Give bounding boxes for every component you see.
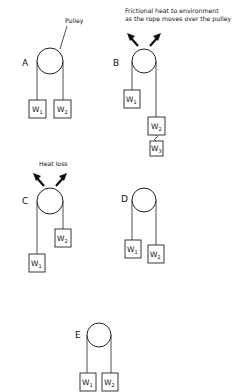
panel-d: D W1 W2 (121, 188, 164, 263)
panel-b: B Frictional heat to environment as the … (113, 7, 231, 156)
heat-arrow-right-icon (150, 33, 161, 46)
panel-e: E W1 W2 (75, 323, 118, 391)
panel-label-c: C (22, 196, 28, 206)
pulley-wheel (87, 323, 111, 347)
weight-w1: W1 (125, 240, 141, 258)
panel-c: C Heat loss W2 W1 (22, 160, 71, 272)
heat-arrow-left-icon (33, 173, 44, 186)
pulley-wheel (37, 188, 63, 214)
weight-w3: W3 (150, 141, 163, 156)
heat-loss-annotation: Heat loss (39, 160, 68, 167)
pulley-annotation: Pulley (65, 17, 84, 25)
panel-label-b: B (113, 58, 119, 68)
weight-w2: W2 (148, 245, 164, 263)
pulley-wheel (132, 49, 156, 73)
weight-w2: W2 (55, 229, 71, 247)
panel-a: A Pulley W1 W2 (22, 17, 84, 118)
annotation-leader-line (60, 26, 67, 49)
pulley-wheel (132, 188, 156, 212)
pulley-wheel (37, 48, 63, 74)
spring-connector (155, 135, 158, 141)
heat-arrow-right-icon (56, 173, 67, 186)
weight-w1: W1 (80, 373, 96, 391)
weight-w1: W1 (124, 90, 140, 108)
heat-arrow-left-icon (127, 33, 138, 46)
panel-label-d: D (121, 194, 128, 204)
friction-annotation-line-1: Frictional heat to environment (125, 7, 219, 14)
weight-w2: W2 (102, 373, 118, 391)
pulley-diagram: A Pulley W1 W2 B Frictional heat to envi… (0, 0, 251, 392)
weight-w2: W2 (148, 117, 165, 135)
panel-label-e: E (75, 330, 81, 340)
weight-w1: W1 (29, 100, 46, 118)
panel-label-a: A (22, 58, 29, 68)
friction-annotation-line-2: as the rope moves over the pulley (125, 15, 231, 23)
weight-w1: W1 (29, 254, 45, 272)
weight-w2: W2 (54, 100, 71, 118)
